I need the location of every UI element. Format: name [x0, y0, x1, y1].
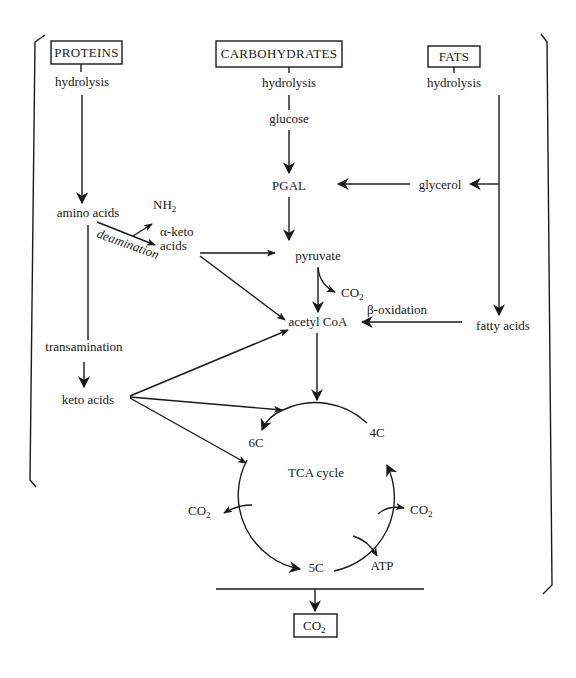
carbohydrates-label: CARBOHYDRATES: [221, 46, 338, 61]
4c-label: 4C: [369, 425, 384, 440]
hydrolysis-fats-label: hydrolysis: [427, 75, 481, 90]
arrow-keto-to-acetylcoa: [130, 330, 288, 396]
arrow-to-co2-left: [224, 505, 252, 513]
arrow-alphaketo-to-acetylcoa: [200, 256, 285, 320]
keto-acids-label: keto acids: [62, 392, 114, 407]
hydrolysis-proteins-label: hydrolysis: [55, 74, 109, 89]
amino-acids-label: amino acids: [57, 205, 119, 220]
co2-right-label: CO2: [410, 502, 433, 519]
nh2-label: NH2: [153, 197, 176, 214]
pyruvate-label: pyruvate: [295, 248, 341, 263]
fats-box: FATS: [428, 46, 480, 67]
deamination-label: deamination: [95, 226, 161, 262]
glucose-label: glucose: [269, 111, 309, 126]
arrow-to-nh2: [133, 224, 152, 236]
right-bracket: [541, 34, 552, 594]
fats-label: FATS: [439, 49, 470, 64]
alpha-keto-label-2: acids: [160, 238, 187, 253]
proteins-box: PROTEINS: [51, 41, 122, 64]
proteins-label: PROTEINS: [54, 45, 119, 60]
transamination-label: transamination: [45, 339, 123, 354]
6c-label: 6C: [248, 435, 263, 450]
metabolism-diagram: PROTEINS CARBOHYDRATES FATS hydrolysis h…: [0, 0, 576, 678]
glycerol-label: glycerol: [419, 177, 462, 192]
final-co2-box: CO2: [294, 614, 337, 637]
hydrolysis-carbs-label: hydrolysis: [262, 75, 316, 90]
arrow-to-co2-right: [378, 507, 404, 514]
acetyl-coa-label: acetyl CoA: [289, 314, 348, 329]
arrow-5c-to-4c: [334, 465, 394, 571]
co2-pyruvate-label: CO2: [341, 285, 364, 302]
left-bracket: [30, 35, 45, 487]
arrow-to-atp: [353, 536, 377, 556]
atp-label: ATP: [370, 558, 393, 573]
pgal-label: PGAL: [272, 178, 306, 193]
carbohydrates-box: CARBOHYDRATES: [216, 41, 342, 67]
beta-oxidation-label: β-oxidation: [367, 302, 428, 317]
tca-cycle-label: TCA cycle: [288, 465, 344, 480]
arrow-4c-to-6c: [262, 410, 283, 430]
co2-left-label: CO2: [188, 503, 211, 520]
arrow-keto-to-tca: [130, 397, 282, 410]
5c-label: 5C: [308, 560, 323, 575]
alpha-keto-label-1: α-keto: [160, 224, 194, 239]
fatty-acids-label: fatty acids: [476, 318, 530, 333]
arrow-keto-to-6c: [130, 398, 246, 463]
arrow-pyruvate-to-co2: [318, 268, 335, 292]
